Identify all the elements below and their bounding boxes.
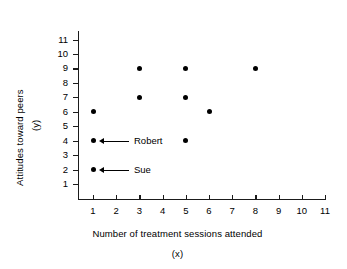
y-axis-line [78,31,79,200]
y-tick-mark [73,170,78,171]
y-tick-label: 4 [52,136,68,146]
x-tick-mark [116,195,117,200]
y-tick-mark [73,97,78,98]
x-tick-mark [163,195,164,200]
x-axis-symbol: (x) [4,248,347,259]
x-tick-label: 4 [155,206,171,216]
y-tick-label: 1 [52,179,68,189]
y-tick-label: 2 [52,165,68,175]
x-tick-mark [232,195,233,200]
annotation-arrow-line [104,170,129,171]
y-tick-mark [73,68,78,69]
y-tick-label: 10 [52,49,68,59]
annotation-label: Sue [134,164,151,175]
data-point [207,109,212,114]
annotation-arrow-line [104,141,129,142]
data-point [137,66,142,71]
y-tick-mark [73,141,78,142]
x-tick-mark [302,195,303,200]
data-point [183,66,188,71]
y-tick-mark [73,83,78,84]
data-point [91,109,96,114]
y-tick-mark [73,40,78,41]
y-tick-mark [73,184,78,185]
x-axis-title: Number of treatment sessions attended [4,228,347,239]
y-tick-label: 5 [52,121,68,131]
y-tick-mark [73,112,78,113]
x-tick-mark [255,195,256,200]
x-tick-label: 2 [108,206,124,216]
y-tick-label: 9 [52,63,68,73]
x-tick-label: 6 [201,206,217,216]
data-point [137,95,142,100]
data-point [91,138,96,143]
y-tick-label: 11 [52,35,68,45]
x-tick-mark [186,195,187,200]
y-tick-label: 3 [52,150,68,160]
x-tick-label: 10 [294,206,310,216]
y-tick-mark [73,54,78,55]
x-tick-mark [139,195,140,200]
x-tick-label: 5 [178,206,194,216]
scatter-plot: Attitudes toward peers (y) Number of tre… [0,0,347,269]
y-tick-mark [73,155,78,156]
x-tick-mark [325,195,326,200]
y-tick-label: 7 [52,92,68,102]
data-point [183,138,188,143]
y-axis-title: Attitudes toward peers [14,89,25,186]
x-tick-label: 9 [271,206,287,216]
x-tick-mark [209,195,210,200]
x-tick-mark [279,195,280,200]
y-tick-label: 6 [52,107,68,117]
x-tick-label: 11 [317,206,333,216]
data-point [183,95,188,100]
x-tick-label: 8 [247,206,263,216]
x-tick-label: 7 [224,206,240,216]
x-tick-mark [93,195,94,200]
data-point [253,66,258,71]
y-tick-label: 8 [52,78,68,88]
x-tick-label: 3 [131,206,147,216]
annotation-label: Robert [134,135,163,146]
x-axis-line [78,199,325,200]
y-axis-symbol: (y) [30,120,41,131]
x-tick-label: 1 [85,206,101,216]
data-point [91,167,96,172]
y-tick-mark [73,126,78,127]
